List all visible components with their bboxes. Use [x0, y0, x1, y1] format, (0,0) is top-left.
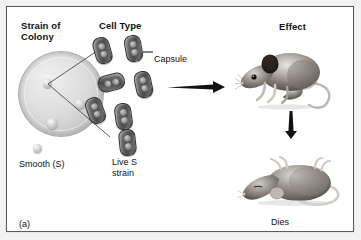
capsulated-bacterium-icon [113, 102, 134, 131]
live-mouse-icon [235, 39, 339, 111]
label-live-s-strain-line-2: strain [112, 168, 137, 179]
bacterial-colony-icon [47, 118, 58, 129]
header-cell-type: Cell Type [99, 21, 141, 32]
header-strain-line-1: Strain of [21, 21, 60, 32]
petri-dish-rim [24, 57, 98, 131]
arrow-right-icon [167, 79, 237, 95]
figure-frame: Strain of Colony Cell Type Effect Capsul… [6, 6, 354, 232]
figure-panel-a: Strain of Colony Cell Type Effect Capsul… [0, 0, 361, 240]
label-live-s-strain-line-1: Live S [112, 157, 137, 168]
petri-dish-icon [18, 51, 104, 137]
label-dies: Dies [271, 217, 289, 228]
capsulated-bacterium-icon [91, 35, 115, 66]
bacterial-colony-icon [43, 79, 52, 88]
label-capsule: Capsule [154, 54, 187, 65]
header-strain-line-2: Colony [21, 32, 60, 43]
capsulated-bacterium-icon [96, 71, 126, 94]
bacterial-colony-icon [75, 99, 85, 109]
header-effect: Effect [279, 22, 306, 33]
panel-label: (a) [19, 219, 30, 230]
label-smooth-strain: Smooth (S) [19, 159, 65, 170]
bacterial-colony-icon [33, 144, 42, 153]
capsulated-bacterium-icon [132, 70, 154, 100]
dead-mouse-icon [237, 153, 347, 215]
capsulated-bacterium-icon [123, 34, 144, 64]
header-strain-of-colony: Strain of Colony [21, 21, 60, 42]
arrow-down-icon [283, 111, 299, 141]
label-live-s-strain: Live S strain [112, 157, 137, 178]
capsulated-bacterium-icon [118, 128, 138, 157]
